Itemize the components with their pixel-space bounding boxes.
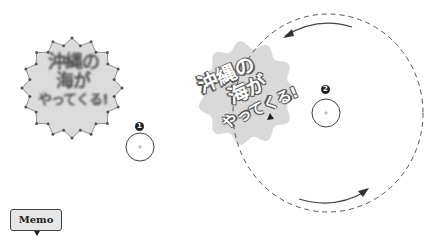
memo-button[interactable]: Memo [10,209,62,231]
left-shape-text: 沖縄の 海が やってくる! [28,52,118,109]
marker-badge-2: 2 [321,85,330,94]
arrow-clockwise-icon [299,188,369,203]
marker-badge-1: 1 [135,122,144,131]
left-text-line-2: 海が [28,71,118,90]
target-circle-2[interactable] [312,99,340,127]
left-text-line-1: 沖縄の [28,52,118,71]
left-text-line-3: やってくる! [28,90,118,109]
memo-pointer-icon [34,231,40,236]
arrow-counterclockwise-icon [283,23,352,38]
target-circle-1[interactable] [126,133,154,161]
